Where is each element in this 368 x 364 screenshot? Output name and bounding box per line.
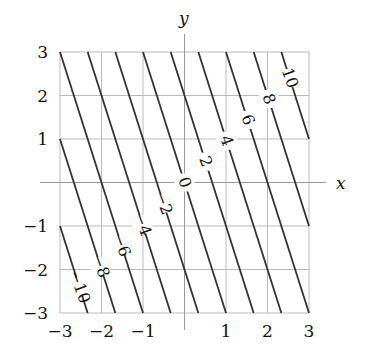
x-axis-label: x: [336, 173, 346, 193]
y-tick-label: −2: [23, 260, 48, 280]
contour-label: −4: [130, 210, 156, 239]
y-tick-label: 2: [37, 86, 48, 106]
x-tick-label: −1: [130, 321, 155, 341]
x-tick-label: 1: [221, 321, 232, 341]
x-tick-label: 3: [304, 321, 315, 341]
y-tick-label: −3: [23, 303, 48, 323]
contour-label: −2: [151, 189, 177, 218]
y-tick-label: −1: [23, 216, 48, 236]
contour-plot: −10−8−6−4−20246810 −3−2−1123321−1−2−3 x …: [0, 0, 368, 364]
y-tick-label: 3: [37, 42, 48, 62]
y-tick-label: 1: [37, 129, 48, 149]
x-tick-label: −2: [89, 321, 114, 341]
y-axis-label: y: [178, 8, 189, 28]
contour-label: −8: [88, 252, 114, 281]
x-tick-label: −3: [47, 321, 72, 341]
x-tick-label: 2: [262, 321, 273, 341]
contour-label: −6: [109, 231, 135, 260]
